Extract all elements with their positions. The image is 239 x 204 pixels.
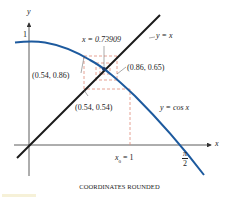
point-label-054-054: (0.54, 0.54) (75, 104, 112, 112)
fixed-point-label: x = 0.73909 (82, 36, 121, 44)
pi-denominator: 2 (182, 160, 188, 168)
point-label-054-086: (0.54, 0.86) (32, 72, 69, 80)
y-tick-1-label: 1 (23, 31, 27, 39)
y-axis-label: y (27, 8, 31, 16)
point-label-086-065: (0.86, 0.65) (127, 64, 164, 72)
identity-line-label: y = x (156, 32, 173, 40)
fixed-point-label-text: x = 0.73909 (82, 35, 121, 44)
x0-tick-label: x0 = 1 (115, 154, 134, 164)
x0-value: = 1 (121, 153, 134, 162)
pi-over-2-tick-label: π 2 (182, 150, 188, 168)
x-axis-label: x (215, 140, 219, 148)
cos-curve-label: y = cos x (160, 104, 189, 112)
pi-numerator: π (182, 150, 188, 159)
figure-caption: COORDINATES ROUNDED (0, 183, 239, 190)
decorative-strip (2, 194, 36, 197)
fixed-point-diagram (0, 0, 239, 204)
